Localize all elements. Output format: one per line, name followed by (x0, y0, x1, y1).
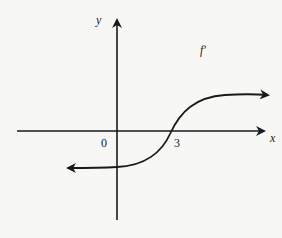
graph-svg (0, 0, 282, 238)
origin-label: 0 (101, 137, 107, 149)
function-label: f′ (200, 44, 206, 56)
x-axis-label: x (270, 132, 275, 144)
f-prime-curve-upper (170, 94, 268, 134)
f-prime-curve (68, 134, 170, 168)
y-axis-label: y (96, 14, 101, 26)
root-label: 3 (174, 137, 180, 149)
graph-canvas: y x 0 3 f′ (0, 0, 282, 238)
